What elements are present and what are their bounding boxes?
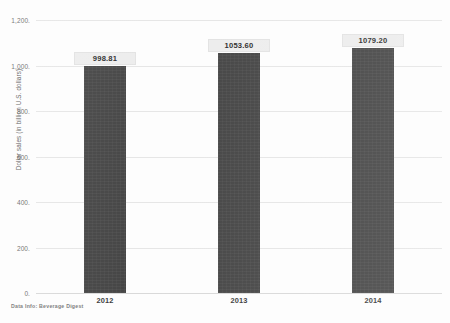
y-axis-title: Dollar sales (in billion U.S. dollars) (15, 40, 22, 200)
bar-value-label-2013: 1053.60 (208, 39, 270, 52)
x-axis-tick-label-2013: 2013 (230, 296, 247, 305)
x-axis-tick-label-2014: 2014 (364, 296, 381, 305)
bar-2014 (352, 48, 394, 294)
bar-value-label-2012: 998.81 (74, 52, 136, 65)
y-axis-tick-label: 400. (17, 199, 30, 206)
y-axis-tick-label: 1,200. (11, 17, 30, 24)
bar-2012 (84, 66, 126, 293)
x-axis-tick-label-2012: 2012 (96, 296, 113, 305)
bar-chart: 1,200. 1,000. 800. 600. 400. 200. 0. Dol… (0, 0, 450, 323)
bar-value-label-2014: 1079.20 (342, 34, 404, 47)
y-axis-tick-label: 200. (17, 244, 30, 251)
plot-area: 998.81 1053.60 1079.20 (36, 20, 442, 293)
bar-2013 (218, 53, 260, 293)
source-note: Data Info: Beverage Digest (11, 303, 84, 309)
x-axis-tick-labels: 2012 2013 2014 (36, 294, 442, 310)
gridline-1200 (36, 20, 442, 21)
y-axis-tick-label: 0. (24, 290, 30, 297)
